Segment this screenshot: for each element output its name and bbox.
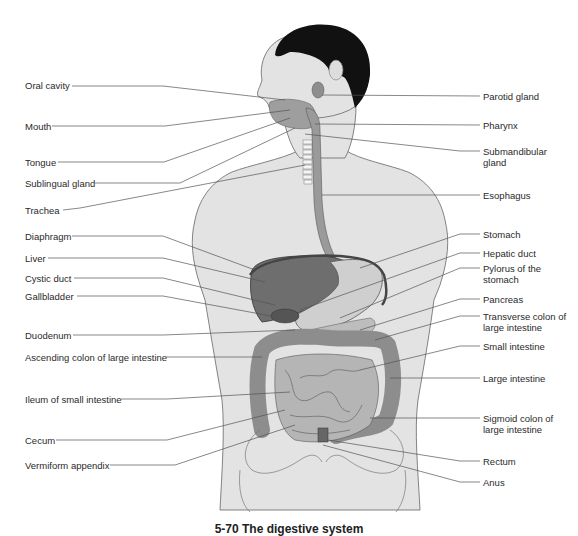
label-trachea: Trachea: [25, 205, 60, 216]
label-ileum: Ileum of small intestine: [25, 394, 122, 405]
label-gallbladder: Gallbladder: [25, 291, 74, 302]
label-diaphragm: Diaphragm: [25, 231, 71, 242]
label-pylorus: Pylorus of the stomach: [483, 263, 555, 285]
label-tongue: Tongue: [25, 157, 56, 168]
label-sigmoid-colon: Sigmoid colon of large intestine: [483, 413, 575, 435]
label-anus: Anus: [483, 477, 578, 488]
label-transverse-colon: Transverse colon of large intestine: [483, 311, 575, 333]
label-ascending-colon: Ascending colon of large intestine: [25, 352, 167, 363]
label-sublingual-gland: Sublingual gland: [25, 178, 95, 189]
label-small-intestine: Small intestine: [483, 341, 578, 352]
label-parotid-gland: Parotid gland: [483, 91, 578, 102]
label-pharynx: Pharynx: [483, 120, 578, 131]
label-vermiform-appendix: Vermiform appendix: [25, 460, 109, 471]
label-submandibular-gland: Submandibular gland: [483, 146, 553, 168]
label-pancreas: Pancreas: [483, 294, 578, 305]
label-stomach: Stomach: [483, 229, 578, 240]
label-large-intestine: Large intestine: [483, 373, 578, 384]
label-esophagus: Esophagus: [483, 190, 578, 201]
label-liver: Liver: [25, 253, 46, 264]
ear: [329, 60, 343, 80]
gallbladder: [271, 309, 299, 323]
label-duodenum: Duodenum: [25, 330, 71, 341]
label-oral-cavity: Oral cavity: [25, 80, 70, 91]
rectum: [318, 428, 328, 442]
label-hepatic-duct: Hepatic duct: [483, 248, 578, 259]
parotid-gland: [312, 82, 324, 98]
label-mouth: Mouth: [25, 121, 51, 132]
figure-caption: 5-70 The digestive system: [0, 522, 578, 536]
label-cecum: Cecum: [25, 435, 55, 446]
trachea: [303, 140, 312, 184]
label-rectum: Rectum: [483, 456, 578, 467]
label-cystic-duct: Cystic duct: [25, 273, 71, 284]
